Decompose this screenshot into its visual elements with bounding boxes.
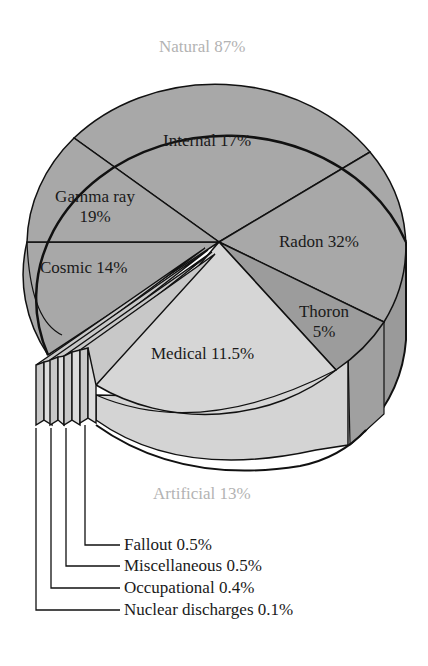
thoron-label-line1: Thoron xyxy=(284,302,364,322)
artificial-group-label: Artificial 13% xyxy=(153,484,251,504)
radon-label: Radon 32% xyxy=(279,232,359,252)
fallout-label: Fallout 0.5% xyxy=(124,535,212,555)
leader-lines xyxy=(36,425,120,610)
cosmic-label: Cosmic 14% xyxy=(40,258,127,278)
natural-group-label: Natural 87% xyxy=(159,37,245,57)
gamma-ray-label-line2: 19% xyxy=(40,207,150,227)
thoron-label-line2: 5% xyxy=(284,322,364,342)
occupational-label: Occupational 0.4% xyxy=(124,578,254,598)
gamma-ray-label-line1: Gamma ray xyxy=(40,187,150,207)
internal-label: Internal 17% xyxy=(163,131,251,151)
gamma-ray-label: Gamma ray 19% xyxy=(40,187,150,227)
thoron-label: Thoron 5% xyxy=(284,302,364,342)
medical-label: Medical 11.5% xyxy=(151,344,254,364)
miscellaneous-label: Miscellaneous 0.5% xyxy=(124,556,262,576)
nuclear-discharges-label: Nuclear discharges 0.1% xyxy=(124,600,293,620)
